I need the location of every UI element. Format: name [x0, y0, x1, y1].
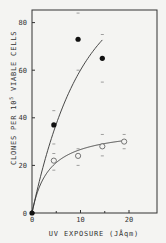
data-points — [29, 37, 126, 216]
chart: 020406080 01020 UV EXPOSURE (JÅqm) CLONE… — [0, 0, 166, 243]
y-axis-ticks: 020406080 — [19, 19, 35, 217]
fit-curves — [32, 40, 124, 213]
svg-text:20: 20 — [125, 216, 133, 224]
y-axis-label: CLONES PER 105 VIABLE CELLS — [8, 31, 18, 165]
svg-text:80: 80 — [19, 19, 27, 27]
svg-text:60: 60 — [19, 67, 27, 75]
svg-text:40: 40 — [19, 114, 27, 122]
svg-text:0: 0 — [30, 216, 34, 224]
svg-text:10: 10 — [76, 216, 84, 224]
x-axis-label: UV EXPOSURE (JÅqm) — [49, 229, 139, 238]
plot-frame — [32, 10, 157, 213]
svg-text:20: 20 — [19, 162, 27, 170]
svg-text:0: 0 — [23, 210, 27, 218]
x-axis-ticks: 01020 — [30, 210, 133, 224]
